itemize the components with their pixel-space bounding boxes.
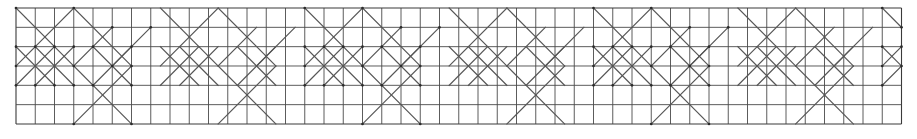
lattice-node: [130, 123, 133, 126]
lattice-node: [650, 84, 653, 87]
lattice-node: [438, 26, 441, 29]
lattice-node: [72, 84, 75, 87]
lattice-node: [72, 45, 75, 48]
lattice-node: [34, 45, 37, 48]
lattice-node: [53, 45, 56, 48]
lattice-node: [419, 84, 422, 87]
lattice-node: [380, 84, 383, 87]
lattice-node: [303, 45, 306, 48]
lattice-node: [708, 84, 711, 87]
lattice-node: [900, 26, 903, 29]
lattice-node: [323, 84, 326, 87]
lattice-node: [130, 45, 133, 48]
lattice-node: [611, 45, 614, 48]
lattice-node: [419, 45, 422, 48]
lattice-node: [611, 84, 614, 87]
lattice-node: [361, 45, 364, 48]
lattice-node: [419, 65, 422, 68]
lattice-node: [111, 26, 114, 29]
lattice-node: [708, 65, 711, 68]
lattice-node: [881, 84, 884, 87]
lattice-node: [400, 26, 403, 29]
lattice-node: [419, 123, 422, 126]
lattice-node: [303, 65, 306, 68]
lattice-node: [881, 65, 884, 68]
lattice-node: [72, 123, 75, 126]
lattice-node: [342, 84, 345, 87]
lattice-node: [400, 65, 403, 68]
lattice-node: [669, 84, 672, 87]
lattice-canvas: [0, 0, 917, 139]
lattice-node: [130, 65, 133, 68]
lattice-node: [688, 65, 691, 68]
lattice-node: [361, 84, 364, 87]
lattice-node: [72, 65, 75, 68]
lattice-node: [303, 7, 306, 10]
lattice-node: [631, 45, 634, 48]
lattice-node: [15, 45, 18, 48]
lattice-node: [149, 26, 152, 29]
lattice-node: [881, 45, 884, 48]
lattice-node: [15, 65, 18, 68]
lattice-node: [592, 7, 595, 10]
lattice-node: [881, 7, 884, 10]
lattice-node: [323, 45, 326, 48]
lattice-node: [688, 26, 691, 29]
lattice-node: [15, 7, 18, 10]
lattice-node: [669, 45, 672, 48]
lattice-node: [92, 84, 95, 87]
lattice-figure: [0, 0, 917, 139]
lattice-node: [361, 65, 364, 68]
lattice-node: [592, 45, 595, 48]
lattice-node: [708, 45, 711, 48]
lattice-node: [15, 84, 18, 87]
lattice-node: [92, 45, 95, 48]
lattice-node: [342, 45, 345, 48]
lattice-node: [34, 84, 37, 87]
lattice-node: [380, 45, 383, 48]
lattice-node: [650, 65, 653, 68]
lattice-node: [650, 123, 653, 126]
lattice-node: [72, 7, 75, 10]
lattice-node: [900, 45, 903, 48]
lattice-node: [361, 7, 364, 10]
lattice-node: [592, 84, 595, 87]
lattice-node: [361, 123, 364, 126]
lattice-node: [303, 84, 306, 87]
lattice-node: [708, 123, 711, 126]
lattice-node: [592, 65, 595, 68]
lattice-node: [900, 65, 903, 68]
lattice-node: [650, 7, 653, 10]
lattice-node: [111, 65, 114, 68]
lattice-node: [53, 84, 56, 87]
lattice-node: [650, 45, 653, 48]
lattice-node: [631, 84, 634, 87]
lattice-node: [727, 26, 730, 29]
lattice-node: [130, 84, 133, 87]
